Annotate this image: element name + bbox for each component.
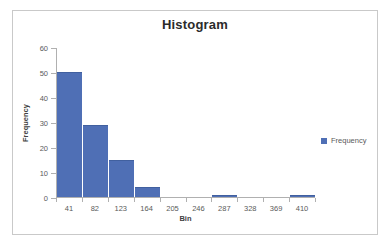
y-tick-mark [51, 123, 56, 124]
legend-swatch-frequency [321, 138, 327, 144]
x-axis-title: Bin [56, 214, 315, 223]
x-tick-label: 123 [114, 204, 127, 213]
y-tick-label: 30 [40, 119, 48, 128]
y-tick-mark [51, 98, 56, 99]
bar[interactable] [135, 187, 160, 197]
y-tick-label: 0 [44, 194, 48, 203]
legend-label-frequency: Frequency [331, 136, 366, 145]
x-tick-mark [211, 198, 212, 202]
plot-area[interactable]: 0102030405060 41821231642052462873283694… [56, 48, 315, 198]
y-tick-mark [51, 173, 56, 174]
x-tick-mark [289, 198, 290, 202]
bar[interactable] [83, 125, 108, 198]
y-axis-title: Frequency [21, 104, 30, 142]
chart-title: Histogram [13, 17, 377, 32]
x-tick-mark [237, 198, 238, 202]
y-tick-label: 20 [40, 144, 48, 153]
x-tick-label: 246 [192, 204, 205, 213]
bar[interactable] [57, 72, 82, 197]
y-tick-label: 40 [40, 94, 48, 103]
bar[interactable] [290, 195, 315, 198]
bar[interactable] [109, 160, 134, 198]
y-tick-mark [51, 48, 56, 49]
x-tick-mark [186, 198, 187, 202]
bar[interactable] [212, 195, 237, 198]
x-tick-label: 82 [91, 204, 99, 213]
x-tick-label: 287 [218, 204, 231, 213]
chart-container[interactable]: Histogram 0102030405060 4182123164205246… [12, 10, 378, 235]
x-tick-mark [108, 198, 109, 202]
y-tick-label: 10 [40, 169, 48, 178]
x-tick-mark [315, 198, 316, 202]
chart-legend[interactable]: Frequency [321, 136, 366, 145]
x-tick-label: 369 [270, 204, 283, 213]
x-tick-label: 41 [65, 204, 73, 213]
y-tick-mark [51, 148, 56, 149]
x-tick-mark [82, 198, 83, 202]
x-tick-mark [56, 198, 57, 202]
x-tick-label: 205 [166, 204, 179, 213]
x-tick-mark [134, 198, 135, 202]
x-tick-label: 164 [140, 204, 153, 213]
x-tick-mark [160, 198, 161, 202]
y-tick-label: 60 [40, 44, 48, 53]
x-tick-label: 328 [244, 204, 257, 213]
y-tick-mark [51, 73, 56, 74]
y-tick-label: 50 [40, 69, 48, 78]
x-tick-label: 410 [296, 204, 309, 213]
x-tick-mark [263, 198, 264, 202]
